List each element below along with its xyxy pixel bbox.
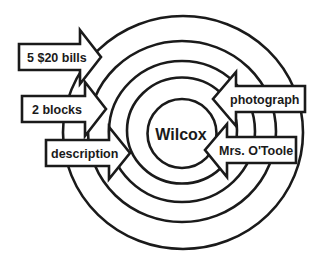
concentric-circles-diagram: Wilcox 5 $20 bills 2 blocks description … xyxy=(0,0,321,269)
arrow-label-description: description xyxy=(51,147,118,161)
arrow-label-five-twenty-bills: 5 $20 bills xyxy=(27,51,87,65)
arrow-label-mrs-otoole: Mrs. O'Toole xyxy=(219,144,293,158)
arrow-five-twenty-bills: 5 $20 bills xyxy=(19,30,101,84)
arrow-label-two-blocks: 2 blocks xyxy=(32,103,82,117)
arrow-label-photograph: photograph xyxy=(230,93,299,107)
center-label: Wilcox xyxy=(155,126,207,143)
